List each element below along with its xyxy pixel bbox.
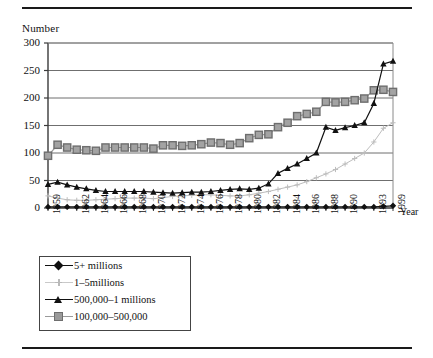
y-tick-label: 100 (10, 147, 40, 158)
x-tick-label: 1980 (253, 194, 263, 214)
x-tick-label: 1984 (292, 194, 302, 214)
legend-label: 1–5millions (74, 277, 124, 288)
x-tick-label: 1962 (81, 194, 91, 214)
x-tick-label: 1972 (177, 194, 187, 214)
x-tick-label: 1986 (311, 194, 321, 214)
y-tick-label: 200 (10, 92, 40, 103)
x-tick-label: 1982 (272, 194, 282, 214)
y-tick-label: 250 (10, 65, 40, 76)
chart-legend: 5+ millions 1–5millions 500,000–1 millio… (39, 256, 191, 331)
x-tick-label: 1964 (100, 194, 110, 214)
x-tick-label: 1966 (119, 194, 129, 214)
cross-marker (44, 276, 74, 290)
x-tick-label: 1976 (215, 194, 225, 214)
x-tick-label: 1959 (52, 194, 62, 214)
x-tick-label: 1978 (234, 194, 244, 214)
legend-item-1-5-millions: 1–5millions (40, 274, 190, 291)
y-tick-label: 50 (10, 175, 40, 186)
x-tick-label: 1988 (330, 194, 340, 214)
legend-label: 5+ millions (74, 260, 122, 271)
x-tick-label: 1990 (349, 194, 359, 214)
triangle-marker (44, 293, 74, 307)
square-marker (44, 310, 74, 324)
y-tick-label: 300 (10, 37, 40, 48)
legend-label: 100,000–500,000 (74, 311, 148, 322)
x-tick-label: 1993 (378, 194, 388, 214)
x-tick-label: 1999 (397, 194, 407, 214)
y-tick-label: 0 (10, 202, 40, 213)
legend-item-100k-500k: 100,000–500,000 (40, 308, 190, 325)
x-tick-label: 1974 (196, 194, 206, 214)
x-tick-label: 1970 (157, 194, 167, 214)
legend-label: 500,000–1 millions (74, 294, 156, 305)
legend-item-5-millions: 5+ millions (40, 257, 190, 274)
legend-item-500k-1-millions: 500,000–1 millions (40, 291, 190, 308)
x-tick-label: 1968 (138, 194, 148, 214)
y-tick-label: 150 (10, 120, 40, 131)
diamond-marker (44, 259, 74, 273)
figure-container: Number Year 050100150200250300 195919621… (0, 0, 433, 358)
